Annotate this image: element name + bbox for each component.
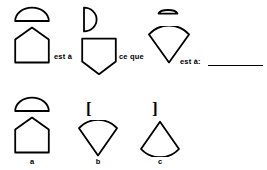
prompt-term-2-top-half-disc-icon bbox=[82, 6, 102, 33]
prompt-term-3-top-flattened-half-disc-icon bbox=[157, 8, 179, 16]
option-a-label[interactable]: a bbox=[22, 157, 42, 166]
option-a-top-half-disc-icon bbox=[13, 96, 51, 113]
prompt-term-1-bottom-house-pentagon-icon bbox=[13, 26, 51, 64]
option-c-top-bracket-close-icon: ] bbox=[152, 100, 158, 117]
option-c-bottom-sector-up-icon bbox=[138, 120, 182, 157]
connector-est-a-first: est à bbox=[54, 53, 72, 61]
option-c-label[interactable]: c bbox=[150, 157, 170, 166]
option-b-top-bracket-open-icon: [ bbox=[86, 100, 92, 117]
option-a-bottom-house-pentagon-icon bbox=[13, 116, 51, 154]
connector-est-a-second: est à: bbox=[180, 58, 201, 66]
connector-ce-que: ce que bbox=[119, 53, 144, 61]
answer-blank-line[interactable] bbox=[208, 65, 263, 66]
option-b-label[interactable]: b bbox=[88, 157, 108, 166]
puzzle-canvas: est à ce que est à: a [ bbox=[0, 0, 267, 170]
option-b-bottom-sector-down-icon bbox=[76, 120, 120, 157]
prompt-term-1-top-half-disc-icon bbox=[13, 6, 51, 23]
prompt-term-2-bottom-shield-icon bbox=[80, 37, 118, 76]
